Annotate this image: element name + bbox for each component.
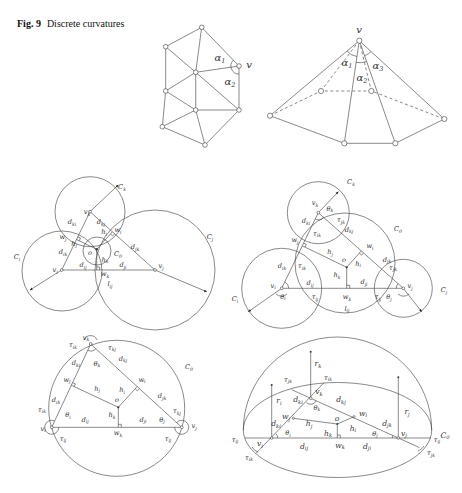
- radius-arrow-cj: [155, 270, 207, 292]
- circumcircle-diagram: vk τik τkj dkj dki θk C0 wj wi hj hi djk…: [38, 334, 197, 477]
- label-djk: djk: [131, 243, 140, 253]
- label-hi: hi: [350, 424, 357, 434]
- label-dkj: dkj: [119, 355, 128, 365]
- label-wi: wi: [366, 242, 374, 251]
- label-tau-jk: τjk: [284, 376, 292, 386]
- label-tau-ij-2: τij: [375, 293, 382, 303]
- label-rj: rj: [404, 407, 410, 418]
- figure-canvas: Fig. 9Discrete curvatures α1 α2 v: [0, 0, 462, 493]
- pyramid-diagram: v α1 α2 α3: [267, 24, 447, 146]
- label-tau-ij: τij: [232, 436, 239, 446]
- label-cj: Cj: [441, 286, 448, 296]
- label-vk: vk: [83, 334, 90, 343]
- label-o: o: [335, 414, 340, 423]
- label-alpha-2: α2: [357, 72, 368, 85]
- label-dji: dji: [363, 442, 371, 453]
- label-hj: hj: [327, 248, 333, 258]
- label-alpha-2: α2: [225, 76, 236, 89]
- label-wi: wi: [359, 409, 368, 419]
- label-vi: vi: [40, 425, 46, 434]
- label-wk: wk: [114, 429, 123, 438]
- label-dki: dki: [293, 395, 303, 405]
- label-tau-kj: τkj: [108, 344, 116, 354]
- label-djk: djk: [158, 392, 167, 402]
- label-tau-jk: τjk: [337, 216, 345, 226]
- label-hk: hk: [333, 271, 340, 280]
- label-vk: vk: [315, 387, 322, 397]
- label-alpha-1: α1: [215, 52, 226, 65]
- intersecting-circles-diagram: Ck C0 Cj Ci vk θk τjk dki dkj τik wj wi …: [232, 178, 448, 328]
- label-tau-jk-2: τjk: [427, 449, 435, 459]
- label-dki: dki: [302, 217, 311, 226]
- label-wi: wi: [138, 376, 146, 385]
- label-alpha-3: α3: [373, 60, 384, 73]
- label-dik: dik: [52, 396, 61, 405]
- label-dkj: dkj: [336, 395, 346, 406]
- label-vk: vk: [84, 208, 91, 217]
- label-tau-jk-2: τjk: [389, 264, 397, 274]
- label-wj: wj: [291, 236, 299, 246]
- label-c0: C0: [114, 250, 122, 259]
- label-hi: hi: [101, 228, 107, 237]
- label-tau-ij: τij: [60, 435, 67, 445]
- label-hk: hk: [101, 256, 108, 265]
- label-o: o: [342, 256, 346, 264]
- label-wj: wj: [63, 376, 71, 386]
- hs-vertices: [270, 351, 399, 440]
- label-o: o: [88, 249, 92, 257]
- label-c0: C0: [394, 225, 402, 234]
- label-c0: C0: [440, 431, 450, 441]
- label-lij: lij: [344, 305, 350, 315]
- label-ck: Ck: [347, 178, 355, 187]
- label-dji: dji: [139, 416, 147, 426]
- label-dik: dik: [278, 262, 287, 271]
- label-ci: Ci: [232, 295, 239, 304]
- label-tau-ik-2: τik: [38, 406, 46, 415]
- radius-arrow-cj: [403, 288, 421, 311]
- label-wk: wk: [101, 270, 110, 279]
- label-tau-ik: τik: [69, 341, 77, 350]
- right-angle-mark: [337, 435, 340, 438]
- label-vi: vi: [52, 266, 58, 275]
- label-o: o: [115, 396, 119, 404]
- label-apex-v: v: [356, 24, 362, 35]
- circle-c0: [49, 340, 185, 476]
- label-c0: C0: [185, 363, 193, 372]
- label-vj: vj: [407, 282, 413, 292]
- label-tau-ik: τik: [324, 374, 332, 383]
- pyramid-solid-edges: [270, 41, 444, 144]
- figure-caption: Fig. 9Discrete curvatures: [17, 18, 124, 29]
- label-ci: Ci: [14, 253, 21, 262]
- label-theta-i: θi: [285, 429, 291, 438]
- label-dij: dij: [300, 442, 309, 453]
- label-theta-j: θj: [386, 293, 392, 303]
- label-wk: wk: [343, 293, 352, 302]
- pyramid-angle-arcs: [347, 51, 371, 63]
- label-dij: dij: [79, 261, 87, 271]
- label-lij: lij: [107, 280, 113, 290]
- label-vj: vj: [191, 422, 197, 432]
- label-tau-ij-2: τij: [165, 435, 172, 445]
- label-dkj: dkj: [345, 226, 354, 236]
- label-vj: vj: [401, 429, 407, 440]
- radius-arrow-ck: [90, 185, 118, 212]
- label-ri: ri: [276, 396, 282, 406]
- label-theta-i: θi: [65, 411, 71, 420]
- label-tau-kj-2: τkj: [173, 407, 181, 417]
- label-hi: hi: [355, 260, 361, 269]
- label-vi: vi: [270, 282, 276, 291]
- radius-arrow-ci: [248, 288, 281, 311]
- figure-number: Fig. 9: [17, 18, 41, 29]
- label-dki: dki: [68, 218, 77, 227]
- label-vj: vj: [158, 262, 164, 272]
- label-theta-k: θk: [94, 360, 101, 369]
- label-hj: hj: [71, 240, 77, 250]
- label-dij: dij: [81, 416, 89, 426]
- label-dji: dji: [119, 261, 127, 271]
- label-vi: vi: [257, 439, 263, 449]
- label-tau-ik: τik: [313, 230, 321, 239]
- mesh-diagram: α1 α2 v: [160, 25, 252, 147]
- label-vertex-v: v: [246, 59, 252, 70]
- label-dkj: dkj: [97, 218, 106, 228]
- label-tau-ik-2: τik: [298, 262, 306, 271]
